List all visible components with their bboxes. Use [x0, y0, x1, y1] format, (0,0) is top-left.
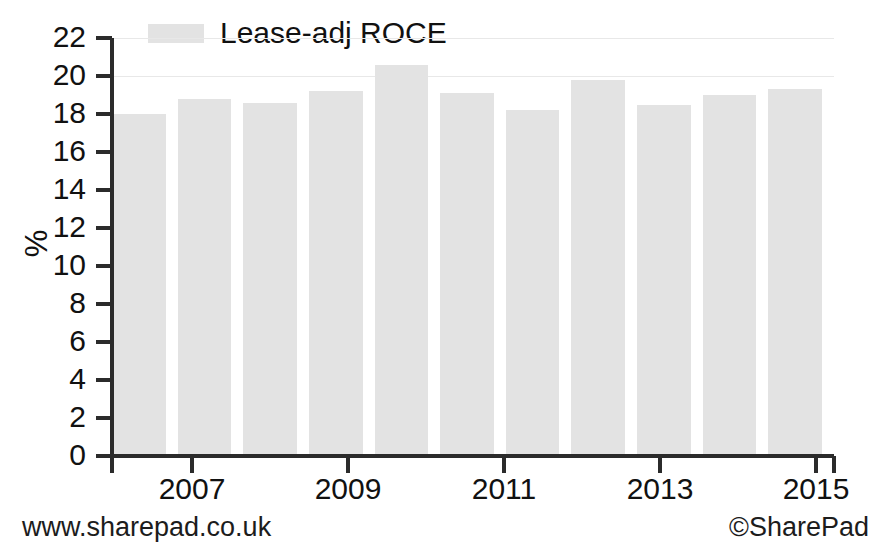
bar-chart: Lease-adj ROCE % 22 20 18 16 14 12 10 8 …	[0, 0, 887, 555]
y-tick-label-16: 16	[28, 136, 86, 166]
bar-2010	[375, 65, 429, 456]
footer-copyright: ©SharePad	[729, 512, 869, 542]
bar-2008	[243, 103, 297, 456]
y-tick-label-18: 18	[28, 98, 86, 128]
y-tick-label-12: 12	[28, 212, 86, 242]
y-tick-label-20: 20	[28, 60, 86, 90]
x-tick-mark-2007	[190, 456, 194, 473]
y-tick-label-6: 6	[28, 326, 86, 356]
plot-area	[112, 38, 834, 456]
x-tick-mark-start	[110, 456, 114, 473]
y-tick-label-14: 14	[28, 174, 86, 204]
x-tick-label-2013: 2013	[600, 472, 720, 506]
x-tick-mark-2009	[346, 456, 350, 473]
bar-2011	[440, 93, 494, 456]
x-axis-line	[110, 454, 834, 458]
y-tick-label-0: 0	[28, 440, 86, 470]
x-axis-labels: 2007 2009 2011 2013 2015	[0, 472, 887, 512]
bar-2006	[112, 114, 166, 456]
x-tick-label-2015: 2015	[756, 472, 876, 506]
bar-2012	[506, 110, 560, 456]
bar-2015	[703, 95, 757, 456]
y-tick-label-2: 2	[28, 402, 86, 432]
bar-2007	[178, 99, 232, 456]
y-tick-label-4: 4	[28, 364, 86, 394]
bar-2014	[637, 105, 691, 457]
bar-2016	[768, 89, 822, 456]
bar-2009	[309, 91, 363, 456]
y-axis-line	[110, 38, 114, 458]
footer-website: www.sharepad.co.uk	[22, 512, 271, 542]
x-tick-label-2009: 2009	[288, 472, 408, 506]
y-tick-label-8: 8	[28, 288, 86, 318]
x-tick-label-2011: 2011	[444, 472, 564, 506]
x-tick-mark-2013	[658, 456, 662, 473]
y-tick-label-22: 22	[28, 22, 86, 52]
x-tick-mark-2011	[502, 456, 506, 473]
x-tick-label-2007: 2007	[132, 472, 252, 506]
bar-2013	[571, 80, 625, 456]
y-tick-label-10: 10	[28, 250, 86, 280]
x-tick-mark-2015	[814, 456, 818, 473]
x-tick-mark-end	[832, 456, 836, 473]
